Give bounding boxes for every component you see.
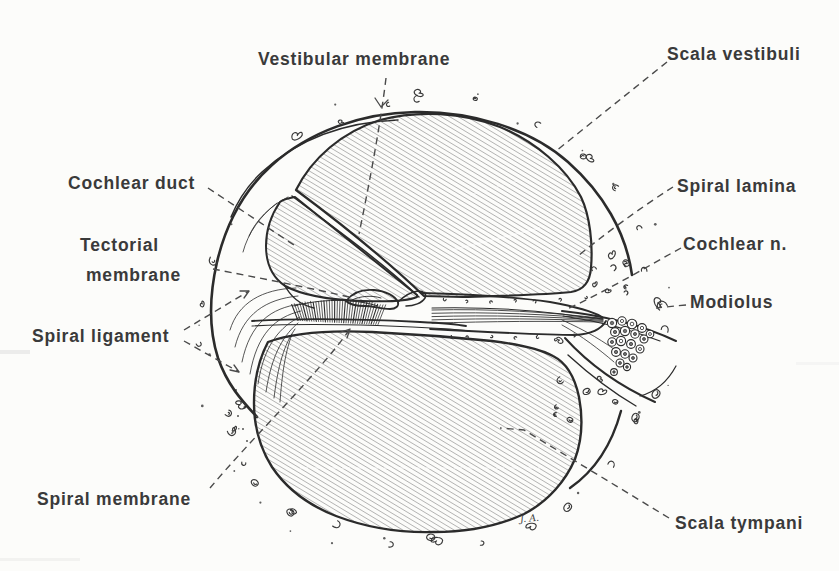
label-spiral-lamina: Spiral lamina xyxy=(677,176,796,196)
label-scala-vestibuli: Scala vestibuli xyxy=(667,44,801,64)
artist-initials: J. A. xyxy=(518,512,540,525)
cochlea-figure: J. A. Vestibular membrane Scala vestibul… xyxy=(0,0,839,571)
label-spiral-membrane: Spiral membrane xyxy=(37,489,191,509)
label-modiolus: Modiolus xyxy=(690,292,773,312)
label-cochlear-duct: Cochlear duct xyxy=(68,173,195,193)
scala-tympani-region xyxy=(254,331,581,532)
label-tectorial-membrane: Tectorial membrane xyxy=(80,230,181,290)
label-vestibular-membrane: Vestibular membrane xyxy=(258,49,450,69)
leader-spiral-ligament-lower xyxy=(184,341,239,372)
leader-scala-vestibuli xyxy=(556,62,667,151)
cochlear-nerve-bundle xyxy=(562,311,676,406)
label-tectorial-line2: membrane xyxy=(86,265,181,285)
spiral-ganglion-cells xyxy=(607,317,653,376)
organ-of-corti xyxy=(252,299,470,331)
leader-spiral-ligament-upper xyxy=(184,291,249,330)
label-spiral-ligament: Spiral ligament xyxy=(32,326,169,346)
label-scala-tympani: Scala tympani xyxy=(675,513,803,533)
label-tectorial-line1: Tectorial xyxy=(80,235,159,255)
label-cochlear-n: Cochlear n. xyxy=(683,234,787,254)
